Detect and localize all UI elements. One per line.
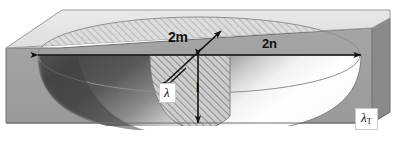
diagram-canvas (0, 0, 396, 141)
ellipsoidal-cavity-diagram: 2m 2n l λ λT (0, 0, 396, 141)
major-axis-label: 2n (262, 37, 277, 50)
cavity-conductivity-label: λ (159, 83, 176, 103)
minor-axis-label: 2m (168, 30, 188, 44)
depth-label: l (196, 82, 199, 94)
medium-conductivity-label: λT (355, 108, 378, 130)
lambda-subscript: T (367, 117, 372, 126)
